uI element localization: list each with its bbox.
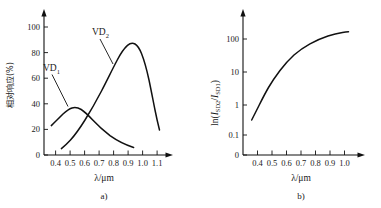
panel-a-ytick-40: 40 (32, 99, 41, 109)
panel-b-xtick-0.6: 0.6 (281, 158, 292, 168)
panel-b-x-axis-arrowhead (358, 152, 366, 157)
panel-a-y-axis-title: 相对响应(%) (5, 62, 15, 108)
panel-b-x-axis-title: λ/μm (291, 173, 311, 183)
panel-b-figure: 0 0.1 1 10 100 0.4 0.5 0.6 0.7 0.8 0.9 1… (190, 0, 381, 208)
panel-b-xtick-0.7: 0.7 (296, 158, 307, 168)
figure-page: 0 20 40 60 80 100 0.4 0.5 0.6 0.7 0.8 0.… (0, 0, 381, 208)
panel-a-xtick-0.8: 0.8 (108, 158, 119, 168)
panel-a-curve-vd1 (51, 108, 133, 148)
panel-a-y-ticks (44, 27, 48, 155)
panel-a-ytick-20: 20 (32, 124, 41, 134)
panel-a-xtick-0.9: 0.9 (123, 158, 134, 168)
panel-a-ytick-60: 60 (32, 73, 41, 83)
panel-b-xtick-1.0: 1.0 (339, 158, 350, 168)
panel-a-leader-vd1 (52, 75, 68, 107)
panel-b-curve (252, 32, 349, 120)
panel-a-caption: a) (101, 191, 108, 201)
panel-b-xtick-0.5: 0.5 (267, 158, 278, 168)
panel-a-xtick-1.0: 1.0 (137, 158, 148, 168)
panel-b-ytick-1: 1 (235, 100, 239, 110)
panel-b-xtick-0.9: 0.9 (325, 158, 336, 168)
panel-b-ytick-0: 0 (235, 150, 239, 160)
panel-a-ytick-80: 80 (32, 48, 41, 58)
panel-a-xtick-1.1: 1.1 (152, 158, 163, 168)
panel-a-xtick-0.7: 0.7 (94, 158, 105, 168)
panel-b-ytick-0.1: 0.1 (228, 130, 239, 140)
panel-a-y-axis-arrowhead (41, 9, 46, 17)
panel-b-xtick-0.8: 0.8 (310, 158, 321, 168)
panel-a-xtick-0.5: 0.5 (65, 158, 76, 168)
panel-a-figure: 0 20 40 60 80 100 0.4 0.5 0.6 0.7 0.8 0.… (0, 0, 190, 208)
panel-a-ytick-0: 0 (36, 150, 40, 160)
panel-a-xtick-0.4: 0.4 (50, 158, 61, 168)
panel-b-ytick-10: 10 (231, 67, 240, 77)
panel-a-x-axis-arrowhead (166, 152, 174, 157)
panel-b-y-ticks (243, 39, 247, 155)
panel-b-xtick-0.4: 0.4 (252, 158, 263, 168)
panel-a-leader-vd2 (100, 39, 113, 64)
panel-b-y-axis-title: ln(ISD2/ISD1) (210, 80, 221, 126)
panel-b-y-axis-arrowhead (240, 9, 245, 17)
panel-a-label-vd2: VD2 (92, 27, 109, 39)
panel-b-caption: b) (297, 191, 305, 201)
panel-a-x-ticks (56, 151, 158, 156)
panel-a-x-axis-title: λ/μm (94, 173, 114, 183)
panel-a-xtick-0.6: 0.6 (79, 158, 90, 168)
panel-b-x-ticks (258, 151, 345, 156)
panel-b-ytick-100: 100 (226, 34, 239, 44)
panel-b-plot: 0 0.1 1 10 100 0.4 0.5 0.6 0.7 0.8 0.9 1… (190, 0, 381, 208)
panel-a-label-vd1: VD1 (43, 63, 60, 75)
panel-a-ytick-100: 100 (27, 22, 40, 32)
panel-a-plot: 0 20 40 60 80 100 0.4 0.5 0.6 0.7 0.8 0.… (0, 0, 190, 208)
